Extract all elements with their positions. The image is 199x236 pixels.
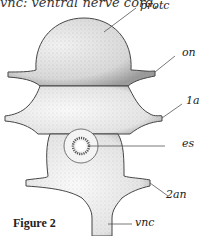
label-es: es	[182, 137, 194, 150]
label-on: on	[182, 46, 196, 59]
label-2an: 2an	[166, 188, 187, 201]
protocerebrum	[8, 18, 155, 86]
figure-title: Figure 2	[13, 216, 56, 231]
label-protc: protc	[140, 0, 170, 12]
label-1an: 1an	[186, 94, 199, 107]
label-vnc: vnc	[135, 216, 154, 229]
segment-1an	[5, 86, 162, 134]
